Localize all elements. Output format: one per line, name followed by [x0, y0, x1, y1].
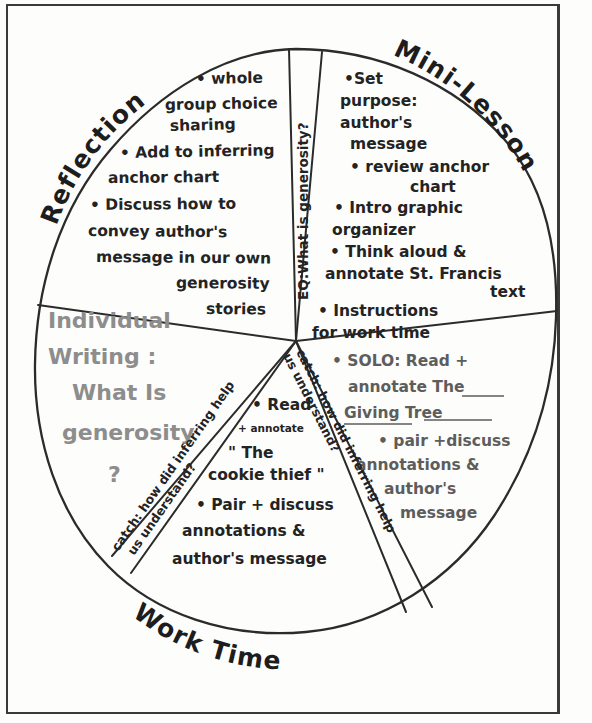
svg-text:• pair +discuss: • pair +discuss [378, 432, 511, 450]
svg-text:annotate The: annotate The [348, 378, 465, 396]
svg-text:anchor chart: anchor chart [108, 168, 220, 187]
svg-text:+ annotate: + annotate [238, 422, 304, 434]
svg-text:annotations &: annotations & [182, 522, 306, 540]
svg-text:•Set: •Set [344, 70, 384, 88]
eq-wedge-label: EQ:What is generosity? [295, 123, 311, 301]
svg-text:sharing: sharing [170, 115, 236, 135]
svg-text:purpose:: purpose: [340, 92, 417, 110]
svg-text:generosity: generosity [62, 420, 195, 445]
svg-text:author's message: author's message [172, 550, 327, 568]
svg-text:convey author's: convey author's [88, 222, 227, 241]
svg-text:cookie thief ": cookie thief " [208, 466, 325, 484]
svg-text:• Think aloud &: • Think aloud & [330, 243, 466, 261]
svg-text:?: ? [108, 462, 121, 487]
svg-text:text: text [490, 283, 526, 301]
svg-text:group choice: group choice [165, 94, 278, 114]
svg-text:annotations &: annotations & [356, 456, 480, 474]
svg-text:• Pair + discuss: • Pair + discuss [196, 496, 334, 514]
svg-text:author's: author's [384, 480, 456, 498]
sector-title-work-time: Work Time [128, 597, 282, 675]
wheel-diagram: Reflection Mini-Lesson Work Time • whole… [0, 0, 592, 723]
svg-text:• Instructions: • Instructions [318, 302, 438, 320]
svg-text:• Add to inferring: • Add to inferring [120, 141, 275, 162]
svg-text:EQ:What is generosity?: EQ:What is generosity? [295, 123, 311, 301]
svg-text:• review anchor: • review anchor [350, 158, 489, 176]
svg-text:annotate St. Francis: annotate St. Francis [325, 265, 502, 283]
svg-text:What Is: What Is [72, 380, 166, 405]
svg-text:message in our own: message in our own [96, 248, 271, 268]
svg-text:stories: stories [206, 300, 266, 319]
svg-text:• SOLO: Read +: • SOLO: Read + [332, 352, 468, 370]
svg-text:chart: chart [410, 178, 456, 196]
svg-text:organizer: organizer [332, 221, 416, 239]
svg-text:• whole: • whole [196, 69, 263, 88]
svg-text:• Discuss how to: • Discuss how to [90, 195, 236, 214]
svg-text:for work time: for work time [312, 324, 430, 342]
svg-text:" The: " The [228, 444, 274, 462]
svg-text:• Intro graphic: • Intro graphic [334, 199, 463, 217]
svg-text:generosity: generosity [176, 274, 270, 293]
svg-text:author's: author's [340, 114, 412, 132]
svg-text:Individual: Individual [48, 308, 171, 333]
svg-text:message: message [400, 504, 477, 522]
svg-text:Writing :: Writing : [48, 344, 156, 369]
lesson-plan-wheel-page: Reflection Mini-Lesson Work Time • whole… [0, 0, 592, 723]
svg-text:message: message [350, 135, 427, 153]
